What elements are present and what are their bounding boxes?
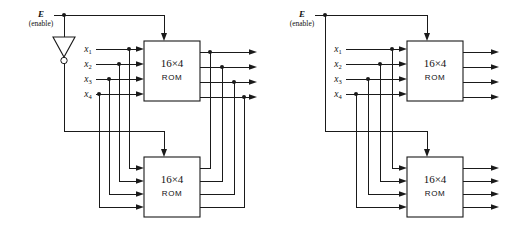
right-output-bottom (463, 165, 499, 210)
left-enable-label: E (37, 9, 44, 19)
right-rom-bottom: 16×4 ROM (407, 157, 463, 217)
right-rom-top-size: 16×4 (424, 57, 447, 69)
left-rom-top-size: 16×4 (161, 57, 184, 69)
left-rom-top-word: ROM (162, 73, 182, 82)
right-input-label-x1: x1 (333, 44, 341, 55)
left-rom-top: 16×4 ROM (144, 41, 200, 101)
right-enable-sublabel: (enable) (290, 19, 315, 28)
right-input-labels: x1 x2 x3 x4 (333, 44, 342, 100)
right-input-wires (346, 46, 407, 97)
circuit-diagram-svg: E (enable) x1 (0, 0, 512, 235)
left-input-labels: x1 x2 x3 x4 (83, 44, 92, 100)
left-input-label-x4: x4 (83, 89, 92, 100)
right-rom-top: 16×4 ROM (407, 41, 463, 101)
left-input-label-x1: x1 (83, 44, 91, 55)
left-input-taps (97, 47, 144, 210)
left-input-label-x2: x2 (83, 59, 91, 70)
right-input-taps (354, 47, 407, 210)
right-input-label-x4: x4 (333, 89, 342, 100)
left-rom-bottom: 16×4 ROM (144, 157, 200, 217)
right-enable-label: E (298, 9, 305, 19)
right-output-top (463, 49, 499, 100)
right-rom-top-word: ROM (425, 73, 445, 82)
right-input-label-x2: x2 (333, 59, 341, 70)
right-rom-bottom-size: 16×4 (424, 173, 447, 185)
left-diagram: E (enable) x1 (29, 9, 257, 217)
left-input-wires (96, 46, 144, 97)
left-rom-bottom-word: ROM (162, 189, 182, 198)
left-input-label-x3: x3 (83, 74, 91, 85)
right-input-label-x3: x3 (333, 74, 341, 85)
left-rom-bottom-size: 16×4 (161, 173, 184, 185)
figure-canvas: E (enable) x1 (0, 0, 512, 235)
left-output-bus (200, 49, 257, 207)
right-rom-bottom-word: ROM (425, 189, 445, 198)
left-enable-sublabel: (enable) (29, 19, 54, 28)
right-diagram: E (enable) x1 x2 x3 x4 (290, 9, 499, 217)
